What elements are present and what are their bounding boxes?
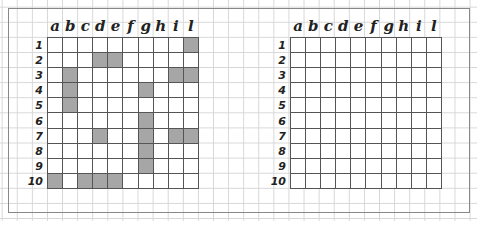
cell-d3[interactable]	[93, 68, 108, 83]
cell-g9[interactable]	[139, 159, 154, 174]
cell-i1[interactable]	[169, 38, 184, 53]
cell-b1[interactable]	[63, 38, 78, 53]
cell-b2[interactable]	[306, 53, 321, 68]
cell-g2[interactable]	[382, 53, 397, 68]
cell-h6[interactable]	[154, 113, 169, 128]
cell-i1[interactable]	[412, 38, 427, 53]
cell-d1[interactable]	[93, 38, 108, 53]
cell-d5[interactable]	[336, 98, 351, 113]
cell-c6[interactable]	[321, 113, 336, 128]
cell-i6[interactable]	[169, 113, 184, 128]
cell-g7[interactable]	[139, 129, 154, 144]
cell-i4[interactable]	[169, 83, 184, 98]
cell-h2[interactable]	[154, 53, 169, 68]
cell-h6[interactable]	[397, 113, 412, 128]
cell-l6[interactable]	[427, 113, 442, 128]
cell-d2[interactable]	[93, 53, 108, 68]
cell-f9[interactable]	[366, 159, 381, 174]
cell-i6[interactable]	[412, 113, 427, 128]
cell-c3[interactable]	[78, 68, 93, 83]
cell-d9[interactable]	[93, 159, 108, 174]
cell-f7[interactable]	[366, 129, 381, 144]
cell-l1[interactable]	[184, 38, 199, 53]
cell-l4[interactable]	[427, 83, 442, 98]
cell-l2[interactable]	[427, 53, 442, 68]
cell-a8[interactable]	[291, 144, 306, 159]
cell-l8[interactable]	[427, 144, 442, 159]
cell-f8[interactable]	[123, 144, 138, 159]
cell-b5[interactable]	[306, 98, 321, 113]
cell-h3[interactable]	[397, 68, 412, 83]
cell-d10[interactable]	[93, 174, 108, 189]
cell-d1[interactable]	[336, 38, 351, 53]
cell-a6[interactable]	[291, 113, 306, 128]
cell-h3[interactable]	[154, 68, 169, 83]
cell-i10[interactable]	[169, 174, 184, 189]
cell-f8[interactable]	[366, 144, 381, 159]
cell-f3[interactable]	[366, 68, 381, 83]
cell-l9[interactable]	[427, 159, 442, 174]
cell-d5[interactable]	[93, 98, 108, 113]
cell-c2[interactable]	[321, 53, 336, 68]
cell-g6[interactable]	[382, 113, 397, 128]
cell-a5[interactable]	[291, 98, 306, 113]
cell-b6[interactable]	[63, 113, 78, 128]
cell-l7[interactable]	[427, 129, 442, 144]
cell-b7[interactable]	[63, 129, 78, 144]
cell-g1[interactable]	[382, 38, 397, 53]
cell-a2[interactable]	[48, 53, 63, 68]
cell-e3[interactable]	[351, 68, 366, 83]
cell-h5[interactable]	[397, 98, 412, 113]
cell-b1[interactable]	[306, 38, 321, 53]
cell-h1[interactable]	[397, 38, 412, 53]
cell-g6[interactable]	[139, 113, 154, 128]
cell-a6[interactable]	[48, 113, 63, 128]
cell-c6[interactable]	[78, 113, 93, 128]
cell-a1[interactable]	[48, 38, 63, 53]
cell-d4[interactable]	[336, 83, 351, 98]
cell-a8[interactable]	[48, 144, 63, 159]
cell-a1[interactable]	[291, 38, 306, 53]
cell-f5[interactable]	[123, 98, 138, 113]
cell-b8[interactable]	[306, 144, 321, 159]
cell-a9[interactable]	[291, 159, 306, 174]
cell-e2[interactable]	[108, 53, 123, 68]
cell-a9[interactable]	[48, 159, 63, 174]
cell-d8[interactable]	[93, 144, 108, 159]
cell-a3[interactable]	[291, 68, 306, 83]
cell-l10[interactable]	[427, 174, 442, 189]
cell-b10[interactable]	[306, 174, 321, 189]
cell-l1[interactable]	[427, 38, 442, 53]
cell-b2[interactable]	[63, 53, 78, 68]
cell-e4[interactable]	[351, 83, 366, 98]
cell-i10[interactable]	[412, 174, 427, 189]
cell-l9[interactable]	[184, 159, 199, 174]
cell-g8[interactable]	[139, 144, 154, 159]
cell-g4[interactable]	[382, 83, 397, 98]
cell-g5[interactable]	[382, 98, 397, 113]
cell-a7[interactable]	[48, 129, 63, 144]
cell-f10[interactable]	[123, 174, 138, 189]
cell-h10[interactable]	[397, 174, 412, 189]
cell-e4[interactable]	[108, 83, 123, 98]
cell-b9[interactable]	[306, 159, 321, 174]
cell-f4[interactable]	[123, 83, 138, 98]
cell-e10[interactable]	[108, 174, 123, 189]
cell-g3[interactable]	[139, 68, 154, 83]
cell-f2[interactable]	[366, 53, 381, 68]
cell-l8[interactable]	[184, 144, 199, 159]
cell-e2[interactable]	[351, 53, 366, 68]
cell-i7[interactable]	[412, 129, 427, 144]
cell-f10[interactable]	[366, 174, 381, 189]
cell-d9[interactable]	[336, 159, 351, 174]
cell-b5[interactable]	[63, 98, 78, 113]
cell-g9[interactable]	[382, 159, 397, 174]
cell-g2[interactable]	[139, 53, 154, 68]
cell-h2[interactable]	[397, 53, 412, 68]
cell-g10[interactable]	[382, 174, 397, 189]
cell-h9[interactable]	[154, 159, 169, 174]
cell-e1[interactable]	[108, 38, 123, 53]
cell-a10[interactable]	[291, 174, 306, 189]
cell-f1[interactable]	[366, 38, 381, 53]
cell-e9[interactable]	[108, 159, 123, 174]
